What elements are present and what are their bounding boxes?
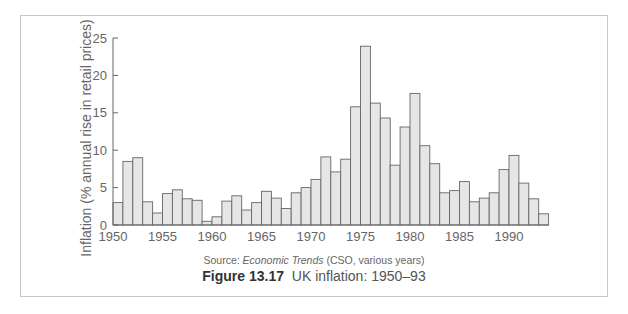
- inflation-bar-chart: 0510152025195019551960196519701975198019…: [0, 0, 628, 314]
- bar-1974: [351, 107, 361, 225]
- bar-1963: [242, 210, 252, 225]
- bar-1981: [420, 146, 430, 225]
- bar-1959: [202, 221, 212, 225]
- y-tick-label: 5: [100, 180, 107, 195]
- bar-1977: [380, 118, 390, 225]
- bar-1990: [509, 155, 519, 225]
- bar-1971: [321, 157, 331, 225]
- bar-1962: [232, 196, 242, 225]
- bar-1956: [172, 190, 182, 225]
- x-tick-label: 1985: [445, 229, 474, 244]
- bar-1976: [370, 103, 380, 225]
- bar-1964: [252, 203, 262, 225]
- bar-1957: [182, 199, 192, 225]
- bar-1960: [212, 217, 222, 225]
- x-tick-label: 1970: [297, 229, 326, 244]
- bar-1984: [450, 191, 460, 225]
- bar-1955: [163, 194, 173, 225]
- y-tick-label: 25: [93, 31, 107, 46]
- x-tick-label: 1965: [247, 229, 276, 244]
- bar-1993: [539, 214, 549, 225]
- bar-1987: [479, 198, 489, 225]
- bar-1978: [390, 165, 400, 225]
- bar-1961: [222, 201, 232, 225]
- x-tick-label: 1955: [148, 229, 177, 244]
- bar-1950: [113, 203, 123, 225]
- y-tick-label: 15: [93, 105, 107, 120]
- bar-1969: [301, 188, 311, 225]
- x-tick-label: 1975: [346, 229, 375, 244]
- bar-1958: [192, 200, 202, 225]
- x-tick-label: 1950: [99, 229, 128, 244]
- source-note: Source: Economic Trends (CSO, various ye…: [0, 254, 628, 266]
- x-tick-label: 1990: [495, 229, 524, 244]
- y-tick-label: 10: [93, 143, 107, 158]
- bar-1965: [262, 191, 272, 225]
- figure-number: Figure 13.17: [202, 268, 284, 284]
- bar-1966: [271, 198, 281, 225]
- bar-1951: [123, 161, 133, 225]
- bar-1988: [489, 193, 499, 225]
- figure-title: UK inflation: 1950–93: [292, 268, 426, 284]
- bar-1952: [133, 158, 143, 225]
- bar-1954: [153, 213, 163, 225]
- bar-1982: [430, 164, 440, 225]
- bar-1953: [143, 202, 153, 225]
- bar-1973: [341, 159, 351, 225]
- bar-1967: [281, 209, 291, 226]
- bar-1968: [291, 193, 301, 225]
- bar-1972: [331, 172, 341, 225]
- figure-caption: Figure 13.17 UK inflation: 1950–93: [0, 268, 628, 284]
- bar-1979: [400, 127, 410, 225]
- bar-1986: [469, 202, 479, 225]
- y-tick-label: 20: [93, 68, 107, 83]
- bar-1991: [519, 183, 529, 225]
- bar-1985: [460, 182, 470, 225]
- bar-1970: [311, 179, 321, 225]
- source-title: Economic Trends: [243, 254, 324, 266]
- bar-1975: [361, 46, 371, 225]
- bar-1980: [410, 93, 420, 225]
- x-tick-label: 1960: [198, 229, 227, 244]
- bar-1983: [440, 193, 450, 225]
- bar-1992: [529, 199, 539, 225]
- x-tick-label: 1980: [396, 229, 425, 244]
- bar-1989: [499, 170, 509, 225]
